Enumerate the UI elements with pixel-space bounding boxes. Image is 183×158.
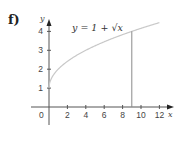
x-tick-label: 2 [65, 110, 70, 120]
y-tick-label: 1 [38, 83, 43, 93]
x-axis-arrow-icon [167, 105, 174, 110]
chart: 246810121234 y = 1 + √x x y 0 f) [0, 0, 183, 158]
x-axis-label: x [168, 110, 173, 119]
equation-label: y = 1 + √x [71, 22, 123, 33]
origin-label: 0 [39, 110, 44, 120]
part-label: f) [8, 12, 20, 27]
x-tick-label: 10 [136, 110, 146, 120]
x-tick-label: 6 [102, 110, 107, 120]
x-tick-label: 8 [120, 110, 125, 120]
y-axis-label: y [39, 14, 45, 23]
x-tick-label: 12 [155, 110, 165, 120]
x-tick-label: 4 [83, 110, 88, 120]
y-tick-label: 2 [38, 64, 43, 74]
y-axis-arrow-icon [47, 19, 52, 26]
y-tick-label: 3 [38, 45, 43, 55]
ticks: 246810121234 [38, 26, 164, 120]
y-tick-label: 4 [38, 26, 43, 36]
